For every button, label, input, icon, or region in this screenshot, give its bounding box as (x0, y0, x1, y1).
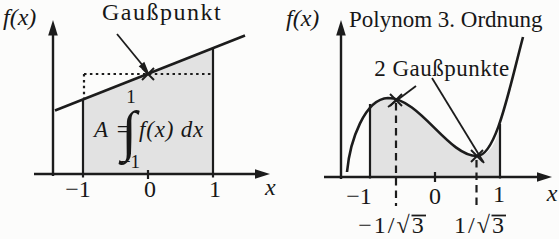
x-axis-label: x (546, 180, 558, 206)
tick-label-one: 1 (493, 181, 505, 207)
gauss-quadrature-figure: f(x) Gaußpunkt A = ∫ 1 −1 f(x) dx −1 0 1… (0, 0, 559, 239)
integral-lower-limit: −1 (120, 151, 140, 172)
formula-integrand: f(x) dx (139, 117, 204, 142)
gausspunkte-annotation: 2 Gaußpunkte (374, 56, 510, 81)
x-axis-label: x (264, 174, 276, 200)
tick-label-minus-one: −1 (65, 176, 91, 202)
tick-label-zero: 0 (429, 183, 441, 209)
gausspunkt-annotation: Gaußpunkt (102, 0, 222, 25)
y-axis-label: f(x) (286, 5, 319, 31)
figure-canvas: f(x) Gaußpunkt A = ∫ 1 −1 f(x) dx −1 0 1… (0, 0, 559, 239)
y-axis-label: f(x) (3, 4, 36, 30)
y-axis-arrow-icon (336, 20, 346, 36)
plot-title: Polynom 3. Ordnung (349, 7, 543, 32)
tick-label-minus-one: −1 (346, 183, 372, 209)
left-plot: f(x) Gaußpunkt A = ∫ 1 −1 f(x) dx −1 0 1… (3, 0, 276, 202)
formula-lhs: A (92, 117, 109, 142)
shaded-area-left (83, 48, 213, 174)
tick-label-zero: 0 (144, 176, 156, 202)
annotation-pointer-line (117, 34, 144, 67)
right-plot: f(x) Polynom 3. Ordnung 2 Gaußpunkte −1 … (286, 5, 558, 238)
y-axis-arrow-icon (48, 20, 58, 36)
tick-label-one: 1 (209, 176, 221, 202)
integral-upper-limit: 1 (126, 86, 136, 107)
shaded-area-right (370, 98, 500, 177)
